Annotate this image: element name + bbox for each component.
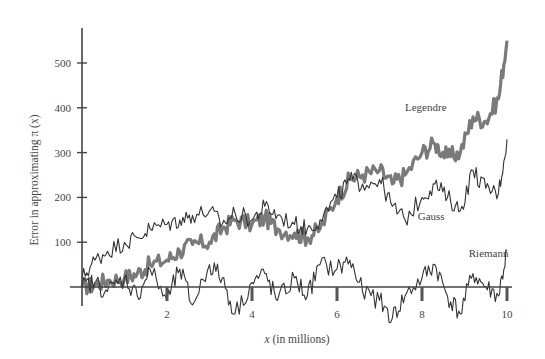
x-tick-label: 8 (419, 308, 425, 320)
x-tick-label: 2 (164, 308, 170, 320)
x-tick-label: 4 (249, 308, 255, 320)
x-ticks: 246810 (164, 287, 513, 320)
series-labels: LegendreGaussRiemann (405, 101, 509, 258)
y-tick-label: 500 (55, 57, 72, 69)
y-axis-title: Error in approximating π (x) (28, 114, 41, 245)
x-axis-title: x (in millions) (263, 333, 329, 346)
x-tick-label: 10 (502, 308, 514, 320)
series-line-gauss (82, 139, 507, 278)
series-line-legendre (82, 41, 507, 294)
series-label-riemann: Riemann (469, 247, 509, 259)
x-tick-label: 6 (334, 308, 340, 320)
y-tick-label: 300 (55, 147, 72, 159)
y-tick-label: 200 (55, 191, 72, 203)
y-tick-label: 100 (55, 236, 72, 248)
series-layer (82, 41, 507, 323)
y-tick-label: 400 (55, 102, 72, 114)
chart: 100200300400500 246810 LegendreGaussRiem… (0, 0, 545, 359)
series-label-gauss: Gauss (418, 210, 445, 222)
series-label-legendre: Legendre (405, 101, 447, 113)
